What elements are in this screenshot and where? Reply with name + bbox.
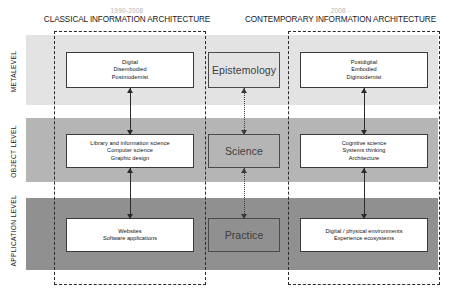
box-object-core: Science <box>208 134 280 168</box>
level-label-application: APPLICATION LEVEL <box>10 205 17 267</box>
box-application-classical: WebsitesSoftware applications <box>66 218 194 252</box>
box-application-core-text: Practice <box>222 229 267 241</box>
level-label-metalevel: METALEVEL <box>10 41 17 103</box>
arrow-stem <box>244 168 245 218</box>
box-object-core-text: Science <box>222 145 266 157</box>
era-name-contemporary: CONTEMPORARY INFORMATION ARCHITECTURE <box>228 15 453 25</box>
arrow-classical-object-application <box>130 168 131 218</box>
arrowhead-down <box>361 130 367 135</box>
box-application-core: Practice <box>208 218 280 252</box>
era-heading-contemporary: 2008 - CONTEMPORARY INFORMATION ARCHITEC… <box>228 7 453 25</box>
box-application-contemporary: Digital / physical environmentsExperienc… <box>300 218 428 252</box>
era-years-contemporary: 2008 - <box>228 7 453 15</box>
arrowhead-down <box>361 214 367 219</box>
arrowhead-up <box>241 168 247 173</box>
box-metalevel-classical-text: DigitalDisembodiedPostmodernist <box>109 59 151 81</box>
arrow-core-object-application <box>244 168 245 218</box>
box-metalevel-core: Epistemology <box>208 52 280 88</box>
box-object-contemporary-text: Cognitive scienceSystems thinkingArchite… <box>339 140 390 162</box>
arrow-contemporary-object-application <box>364 168 365 218</box>
arrowhead-down <box>127 214 133 219</box>
arrow-stem <box>364 88 365 134</box>
box-metalevel-contemporary: PostdigitalEmbodiedDigimodernist <box>300 52 428 88</box>
arrow-stem <box>244 88 245 134</box>
box-metalevel-core-text: Epistemology <box>209 64 279 76</box>
arrow-core-meta-object <box>244 88 245 134</box>
box-application-classical-text: WebsitesSoftware applications <box>100 228 160 243</box>
box-metalevel-contemporary-text: PostdigitalEmbodiedDigimodernist <box>344 59 385 81</box>
era-heading-classical: 1990-2008 CLASSICAL INFORMATION ARCHITEC… <box>16 7 238 25</box>
arrowhead-up <box>361 88 367 93</box>
arrowhead-up <box>361 168 367 173</box>
box-application-contemporary-text: Digital / physical environmentsExperienc… <box>322 228 405 243</box>
arrowhead-down <box>241 214 247 219</box>
arrowhead-down <box>127 130 133 135</box>
level-label-object: OBJECT LEVEL <box>10 121 17 183</box>
box-object-classical: Library and information scienceComputer … <box>66 134 194 168</box>
arrowhead-up <box>127 168 133 173</box>
box-metalevel-classical: DigitalDisembodiedPostmodernist <box>66 52 194 88</box>
arrow-contemporary-meta-object <box>364 88 365 134</box>
arrowhead-up <box>127 88 133 93</box>
arrow-classical-meta-object <box>130 88 131 134</box>
arrowhead-up <box>241 88 247 93</box>
era-name-classical: CLASSICAL INFORMATION ARCHITECTURE <box>16 15 238 25</box>
arrow-stem <box>364 168 365 218</box>
information-architecture-diagram: 1990-2008 CLASSICAL INFORMATION ARCHITEC… <box>0 0 453 299</box>
era-years-classical: 1990-2008 <box>16 7 238 15</box>
arrow-stem <box>130 88 131 134</box>
box-object-classical-text: Library and information scienceComputer … <box>87 140 172 162</box>
arrow-stem <box>130 168 131 218</box>
box-object-contemporary: Cognitive scienceSystems thinkingArchite… <box>300 134 428 168</box>
arrowhead-down <box>241 130 247 135</box>
